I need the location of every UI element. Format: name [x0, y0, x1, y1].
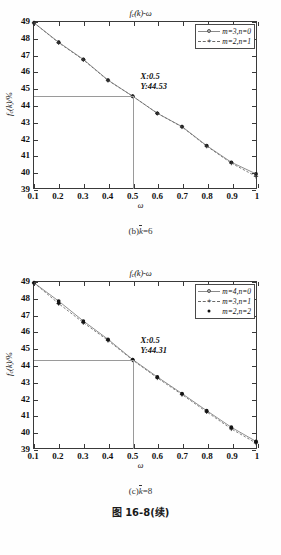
x-tick-label: 0.4: [102, 451, 113, 461]
x-tick-label: 1: [255, 451, 260, 461]
x-tick: [233, 444, 234, 448]
x-tick: [134, 444, 135, 448]
x-tick-top: [109, 282, 110, 286]
x-tick-top: [258, 282, 259, 286]
x-tick-label: 0.9: [226, 451, 237, 461]
legend-symbol-plus-icon: +: [198, 37, 220, 46]
y-tick-label: 45: [8, 83, 30, 93]
y-tick-label: 48: [8, 293, 30, 303]
legend-item: m=4,n=0: [198, 286, 251, 296]
y-tick-right: [252, 22, 256, 23]
figure-b: fc(k)-ω fc(k)/% 0.10.20.30.40.50.60.70.8…: [0, 8, 281, 226]
x-tick-label: 0.8: [202, 191, 213, 201]
y-tick-label: 43: [8, 117, 30, 127]
y-tick-label: 46: [8, 326, 30, 336]
series-marker: [82, 320, 85, 323]
y-tick-right: [252, 89, 256, 90]
x-tick-top: [59, 22, 60, 26]
y-tick-right: [252, 349, 256, 350]
y-tick-right: [252, 106, 256, 107]
legend-c: m=4,n=0+m=3,n=1m=2,n=2: [195, 284, 255, 319]
y-tick-label: 39: [8, 444, 30, 454]
series-marker: [205, 410, 208, 413]
y-tick-right: [252, 56, 256, 57]
y-tick-right: [252, 140, 256, 141]
data-tip-b: X:0.5 Y:44.53: [141, 71, 167, 91]
x-axis-title-c: ω: [0, 461, 281, 470]
x-tick-top: [84, 22, 85, 26]
x-tick: [158, 444, 159, 448]
y-tick-right: [252, 400, 256, 401]
x-tick-label: 1: [255, 191, 260, 201]
x-tick-top: [134, 22, 135, 26]
y-tick-right: [252, 332, 256, 333]
plot-area-b: fc(k)-ω fc(k)/% 0.10.20.30.40.50.60.70.8…: [0, 8, 281, 226]
y-tick: [34, 299, 38, 300]
chart-title-c: fc(k)-ω: [0, 268, 281, 278]
y-tick: [34, 123, 38, 124]
y-tick: [34, 400, 38, 401]
legend-item: +m=2,n=1: [198, 36, 251, 46]
figure-number: 图 16-8(续): [0, 504, 281, 519]
y-tick-label: 49: [8, 276, 30, 286]
y-tick: [34, 72, 38, 73]
x-tick-label: 0.3: [77, 191, 88, 201]
x-tick-top: [158, 22, 159, 26]
x-tick-label: 0.6: [152, 191, 163, 201]
x-tick-label: 0.7: [177, 191, 188, 201]
x-tick: [84, 444, 85, 448]
caption-c-var: k: [139, 486, 143, 496]
figure-c: fc(k)-ω fc(k)/% 0.10.20.30.40.50.60.70.8…: [0, 268, 281, 486]
y-tick-label: 47: [8, 50, 30, 60]
legend-symbol-dot-icon: [198, 307, 220, 316]
y-tick-label: 46: [8, 66, 30, 76]
y-axis-title-c-sub: c: [8, 371, 14, 374]
x-axis-title-c-text: ω: [138, 461, 144, 470]
x-tick-top: [134, 282, 135, 286]
y-tick: [34, 332, 38, 333]
legend-b: m=3,n=0+m=2,n=1: [195, 24, 255, 49]
x-axis-title-b: ω: [0, 201, 281, 210]
y-tick: [34, 366, 38, 367]
x-tick: [109, 444, 110, 448]
x-tick: [258, 444, 259, 448]
x-tick-label: 0.9: [226, 191, 237, 201]
legend-item: m=2,n=2: [198, 306, 251, 316]
y-tick-right: [252, 383, 256, 384]
y-axis-title-b-sub: c: [8, 111, 14, 114]
x-tick: [109, 184, 110, 188]
x-tick-label: 0.7: [177, 451, 188, 461]
caption-b-var: k: [139, 226, 143, 236]
legend-label: m=3,n=0: [220, 27, 251, 36]
data-tip-c-y: Y:44.31: [141, 345, 167, 355]
legend-item: +m=3,n=1: [198, 296, 251, 306]
y-tick-right: [252, 282, 256, 283]
y-tick: [34, 39, 38, 40]
y-tick-right: [252, 433, 256, 434]
figure-page: fc(k)-ω fc(k)/% 0.10.20.30.40.50.60.70.8…: [0, 0, 281, 555]
legend-symbol-circle-icon: [198, 287, 220, 296]
y-tick: [34, 140, 38, 141]
x-tick-top: [109, 22, 110, 26]
series-marker: [156, 376, 159, 379]
y-tick-label: 48: [8, 33, 30, 43]
y-tick-label: 49: [8, 16, 30, 26]
legend-symbol-plus-icon: +: [198, 297, 220, 306]
cursor-hline: [34, 96, 134, 97]
cursor-vline: [133, 96, 134, 189]
x-tick-label: 0.3: [77, 451, 88, 461]
y-tick: [34, 349, 38, 350]
series-marker: [230, 426, 233, 429]
series-marker: [106, 338, 109, 341]
x-tick-label: 0.2: [52, 451, 63, 461]
x-tick: [233, 184, 234, 188]
x-tick-label: 0.2: [52, 191, 63, 201]
y-tick-right: [252, 366, 256, 367]
legend-label: m=4,n=0: [220, 287, 251, 296]
x-tick: [84, 184, 85, 188]
chart-title-b: fc(k)-ω: [0, 8, 281, 18]
y-tick-label: 40: [8, 427, 30, 437]
series-marker: [57, 302, 60, 305]
y-tick-label: 41: [8, 150, 30, 160]
cursor-hline: [34, 360, 134, 361]
